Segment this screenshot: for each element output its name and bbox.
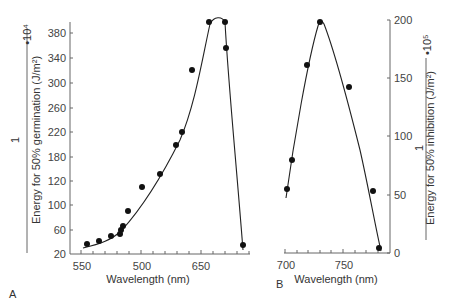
y-tick-label: 60 xyxy=(54,224,66,236)
data-point xyxy=(304,62,310,68)
panel-a-ylabel-denominator: Energy for 50% germination (J/m²) xyxy=(30,56,42,224)
panel-a-ylabel-numerator: 1 xyxy=(9,137,21,143)
data-point xyxy=(376,245,382,251)
data-point xyxy=(120,223,126,229)
y-tick-label: 0 xyxy=(394,247,400,259)
y-tick-label: 380 xyxy=(48,27,66,39)
x-tick-label: 750 xyxy=(335,259,353,271)
data-point xyxy=(157,171,163,177)
y-tick-label: 100 xyxy=(48,199,66,211)
x-tick-label: 700 xyxy=(277,259,295,271)
panel-b-x-ticks xyxy=(285,249,378,253)
panel-a-data-points xyxy=(84,19,246,248)
y-tick-label: 100 xyxy=(394,130,412,142)
data-point xyxy=(189,67,195,73)
data-point xyxy=(84,241,90,247)
panel-b-x-tick-labels: 700 750 xyxy=(277,259,353,271)
data-point xyxy=(206,19,212,25)
panel-b-fit-curve xyxy=(286,21,381,251)
x-tick-label: 500 xyxy=(133,260,151,272)
x-tick-label: 650 xyxy=(192,260,210,272)
panel-b-data-points xyxy=(284,19,382,251)
y-tick-label: 340 xyxy=(48,52,66,64)
data-point xyxy=(96,238,102,244)
panel-a-ylabel-multiplier: •10⁴ xyxy=(21,24,33,45)
panel-a-y-tick-labels: 380 340 300 260 220 180 120 100 60 20 xyxy=(48,27,66,260)
data-point xyxy=(179,129,185,135)
y-tick-label: 220 xyxy=(48,126,66,138)
panel-a: 1 Energy for 50% germination (J/m²) •10⁴… xyxy=(9,18,250,300)
panel-a-x-ticks xyxy=(81,250,249,254)
y-tick-label: 300 xyxy=(48,77,66,89)
panel-a-x-tick-labels: 550 500 650 xyxy=(73,260,210,272)
y-tick-label: 260 xyxy=(48,102,66,114)
data-point xyxy=(108,233,114,239)
panel-a-fit-curve xyxy=(83,18,243,250)
panel-b-ylabel-numerator: 1 xyxy=(413,145,425,151)
data-point xyxy=(222,19,228,25)
panel-a-xlabel: Wavelength (nm) xyxy=(106,273,189,285)
data-point xyxy=(370,188,376,194)
data-point xyxy=(223,45,229,51)
data-point xyxy=(139,184,145,190)
y-tick-label: 150 xyxy=(394,72,412,84)
y-tick-label: 180 xyxy=(48,151,66,163)
data-point xyxy=(125,208,131,214)
data-point xyxy=(346,84,352,90)
panel-b: 700 750 Wavelength (nm) B 200 150 100 50… xyxy=(276,14,436,290)
data-point xyxy=(173,142,179,148)
panel-b-letter: B xyxy=(276,278,283,290)
x-tick-label: 550 xyxy=(73,260,91,272)
data-point xyxy=(284,186,290,192)
panel-a-letter: A xyxy=(9,288,17,300)
y-tick-label: 200 xyxy=(394,14,412,26)
y-tick-label: 20 xyxy=(54,248,66,260)
data-point xyxy=(317,19,323,25)
panel-b-xlabel: Wavelength (nm) xyxy=(294,273,377,285)
data-point xyxy=(240,242,246,248)
y-tick-label: 120 xyxy=(48,175,66,187)
data-point xyxy=(289,157,295,163)
panel-b-y-tick-labels: 200 150 100 50 0 xyxy=(394,14,412,259)
panel-b-ylabel-multiplier: •10⁵ xyxy=(421,34,433,55)
figure: 1 Energy for 50% germination (J/m²) •10⁴… xyxy=(0,0,452,302)
y-tick-label: 50 xyxy=(394,189,406,201)
